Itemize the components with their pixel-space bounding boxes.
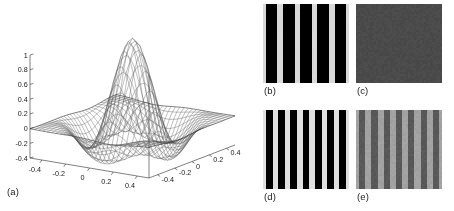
svg-text:1: 1 (24, 51, 28, 60)
panel-caption-b: (b) (264, 85, 276, 96)
panel-d-noise-overlay (263, 110, 349, 189)
panel-caption-c: (c) (357, 85, 368, 96)
svg-text:0.4: 0.4 (125, 181, 135, 190)
svg-text:0.2: 0.2 (18, 109, 28, 118)
panel-b-noise-overlay (263, 4, 349, 83)
svg-text:-0.4: -0.4 (15, 154, 27, 163)
svg-text:0: 0 (81, 173, 85, 182)
panel-c-noise (356, 4, 442, 83)
svg-text:0.8: 0.8 (18, 65, 28, 74)
svg-text:-0.4: -0.4 (29, 165, 41, 174)
svg-text:-0.2: -0.2 (179, 168, 191, 177)
svg-text:0: 0 (24, 124, 28, 133)
svg-text:-0.2: -0.2 (53, 169, 65, 178)
panel-e-noise-overlay (356, 110, 442, 189)
svg-text:-0.2: -0.2 (15, 139, 27, 148)
svg-text:0.4: 0.4 (18, 95, 28, 104)
panel-e-grating (356, 110, 442, 189)
panel-b-grating (263, 4, 349, 83)
panel-caption-a: (a) (7, 186, 19, 197)
svg-text:0.2: 0.2 (213, 155, 223, 164)
svg-text:0.2: 0.2 (101, 177, 111, 186)
panel-caption-e: (e) (357, 191, 369, 202)
surface-plot-svg: 10.80.60.40.20-0.2-0.4-0.4-0.200.20.4-0.… (0, 0, 252, 211)
svg-text:0.6: 0.6 (18, 80, 28, 89)
panel-a-surface-plot: 10.80.60.40.20-0.2-0.4-0.4-0.200.20.4-0.… (0, 0, 252, 211)
svg-text:-0.4: -0.4 (162, 175, 174, 184)
svg-text:0: 0 (196, 162, 200, 171)
figure-container: 10.80.60.40.20-0.2-0.4-0.4-0.200.20.4-0.… (0, 0, 454, 211)
panel-caption-d: (d) (264, 191, 276, 202)
panel-c-noise-overlay (356, 4, 442, 83)
svg-text:0.4: 0.4 (230, 148, 240, 157)
panel-d-grating (263, 110, 349, 189)
